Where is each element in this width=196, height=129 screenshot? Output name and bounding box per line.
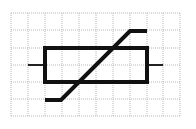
- varistor-symbol-diagram: [0, 0, 196, 129]
- schematic-canvas: Variable resistor symbol: [0, 0, 196, 129]
